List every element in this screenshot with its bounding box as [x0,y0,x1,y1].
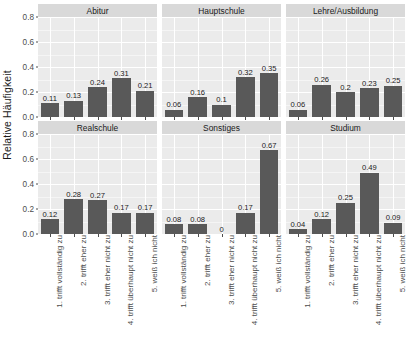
y-axis-tick-label: 0.2 [23,88,34,97]
y-axis-tick-label: 0.6 [23,38,34,47]
x-axis-tick-label: 5. weiß ich nicht [149,234,161,341]
bar-value-label: 0.26 [314,75,329,84]
bar-value-label: 0.49 [362,163,377,172]
bar-value-label: 0.12 [43,210,58,219]
x-axis-tick-label: 1. trifft vollständig zu [302,234,314,341]
x-axis-tick-label: 2. trifft eher zu [202,234,214,341]
x-axis-tick-label: 3. trifft eher nicht zu [226,234,238,341]
x-axis-label-group: 1. trifft vollständig zu2. trifft eher z… [38,234,157,341]
bar-value-label: 0.25 [338,193,353,202]
bar [312,85,331,118]
facet-panel-realschule: Realschule0.120.280.270.170.17 [38,121,157,238]
bar-value-label: 0.28 [66,190,81,199]
bar [112,78,131,117]
x-axis-tick-label: 3. trifft eher nicht zu [350,234,362,341]
bar-value-label: 0.12 [314,210,329,219]
bar-value-label: 0.25 [386,76,401,85]
x-axis-tick-mark [98,117,99,120]
bar [289,110,308,118]
x-axis-label-group: 1. trifft vollständig zu2. trifft eher z… [286,234,405,341]
bar [64,101,83,117]
plot-area: 0.040.120.250.490.09 [286,134,405,234]
x-axis-tick-mark [74,117,75,120]
facet-panel-abitur: Abitur0.110.130.240.310.21 [38,4,157,121]
x-axis-tick-mark [346,117,347,120]
bar [64,199,83,234]
bar-value-label: 0.04 [291,220,306,229]
bar [41,219,60,234]
x-axis-tick-label: 4. trifft überhaupt nicht zu [249,234,261,341]
x-axis-tick-label: 2. trifft eher zu [78,234,90,341]
x-axis-tick-mark [121,117,122,120]
facet-row: 0.00.20.40.60.8Realschule0.120.280.270.1… [14,121,407,238]
x-axis-tick-mark [50,117,51,120]
bar [360,173,379,234]
y-axis-tick-label: 0.2 [23,205,34,214]
x-axis-tick-mark [393,117,394,120]
bar [312,219,331,234]
y-axis-title-label: Relative Häufigkeit [1,70,13,159]
plot-area: 0.060.260.20.230.25 [286,17,405,117]
bar [336,203,355,234]
bar [88,200,107,234]
x-axis-label-group: 1. trifft vollständig zu2. trifft eher z… [162,234,281,341]
facet-strip-label: Abitur [38,4,157,17]
facet-strip-label: Lehre/Ausbildung [286,4,405,17]
bar-value-label: 0.08 [190,215,205,224]
bar [384,86,403,117]
bar-value-label: 0.08 [167,215,182,224]
plot-area: 0.110.130.240.310.21 [38,17,157,117]
bar [41,103,60,117]
bar [260,73,279,117]
x-axis-tick-mark [222,117,223,120]
x-axis-tick-label: 4. trifft überhaupt nicht zu [125,234,137,341]
bar-value-label: 0.35 [262,64,277,73]
bar-value-label: 0.21 [138,81,153,90]
x-axis-tick-label: 5. weiß ich nicht [397,234,407,341]
bar-value-label: 0.1 [216,95,227,104]
bar-value-label: 0.67 [262,141,277,150]
bar [360,88,379,117]
y-axis-tick-label: 0.4 [23,63,34,72]
x-axis-tick-mark [145,117,146,120]
bar-value-label: 0.31 [114,69,129,78]
bar-value-label: 0.17 [238,203,253,212]
bar [188,224,207,234]
bar-value-label: 0.06 [167,100,182,109]
facet-strip-label: Hauptschule [162,4,281,17]
bar [260,150,279,234]
x-axis-tick-mark [174,117,175,120]
y-axis: 0.00.20.40.60.8 [14,4,38,121]
x-axis-tick-label: 2. trifft eher zu [326,234,338,341]
gridline-vertical [222,134,223,234]
bar [384,223,403,234]
facet-row: 0.00.20.40.60.8Abitur0.110.130.240.310.2… [14,4,407,121]
facet-strip-label: Sonstiges [162,121,281,134]
x-axis-tick-mark [298,117,299,120]
bar-value-label: 0.24 [90,78,105,87]
bar [88,87,107,117]
facet-panel-studium: Studium0.040.120.250.490.09 [286,121,405,238]
facet-strip-label: Realschule [38,121,157,134]
bar-value-label: 0.11 [43,94,57,103]
y-axis-tick-label: 0.4 [23,180,34,189]
y-axis-tick-label: 0.8 [23,130,34,139]
bar-value-label: 0.06 [291,100,306,109]
x-axis-tick-label: 3. trifft eher nicht zu [102,234,114,341]
bar-value-label: 0.32 [238,68,253,77]
bar-value-label: 0.17 [114,203,129,212]
x-axis-tick-mark [322,117,323,120]
plot-area: 0.080.0800.170.67 [162,134,281,234]
facet-panel-sonstiges: Sonstiges0.080.0800.170.67 [162,121,281,238]
bar [136,91,155,117]
plot-area: 0.120.280.270.170.17 [38,134,157,234]
y-axis-tick-label: 0.6 [23,155,34,164]
bar-value-label: 0.16 [190,88,205,97]
bar [136,213,155,234]
x-axis-tick-label: 4. trifft überhaupt nicht zu [373,234,385,341]
bar [165,110,184,118]
y-axis: 0.00.20.40.60.8 [14,121,38,238]
bar [165,224,184,234]
facet-panel-hauptschule: Hauptschule0.060.160.10.320.35 [162,4,281,121]
y-axis-title: Relative Häufigkeit [0,0,14,230]
